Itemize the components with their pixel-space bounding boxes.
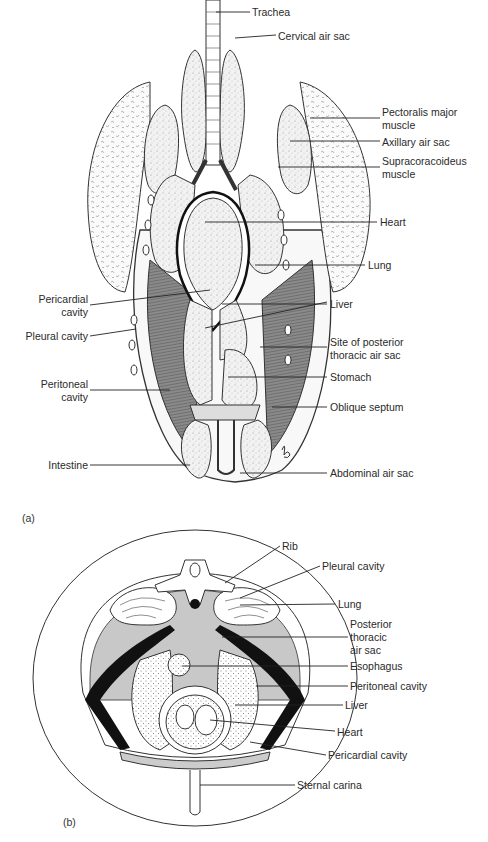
label-pectoralis-major-line1: Pectoralis major xyxy=(382,106,457,118)
label-sternal-carina: Sternal carina xyxy=(297,779,362,791)
label-stomach: Stomach xyxy=(330,371,371,383)
label-liver-b: Liver xyxy=(345,699,368,711)
trachea xyxy=(206,0,220,165)
right-cervical-sac xyxy=(219,50,244,172)
label-axillary-air-sac: Axillary air sac xyxy=(382,136,450,148)
label-esophagus: Esophagus xyxy=(350,660,403,672)
label-heart: Heart xyxy=(380,216,406,228)
esophagus xyxy=(168,654,190,676)
label-oblique-septum: Oblique septum xyxy=(330,401,404,413)
oblique-septum-sheet xyxy=(190,405,260,420)
label-pectoralis-major-line2: muscle xyxy=(382,119,415,131)
label-pleural-cavity-b: Pleural cavity xyxy=(322,560,384,572)
sternal-carina-shape xyxy=(190,770,200,815)
aorta xyxy=(190,599,200,609)
label-abdominal-air-sac: Abdominal air sac xyxy=(330,467,413,479)
panel-label-b: (b) xyxy=(63,816,76,828)
heart-chamber-left xyxy=(176,705,194,729)
label-supracoracoideus-line1: Supracoracoideus xyxy=(382,155,467,167)
label-peritoneal-cavity-line1: Peritoneal xyxy=(41,378,88,390)
label-pericardial-cavity-b: Pericardial cavity xyxy=(328,749,407,761)
label-posterior-thoracic-line2: thoracic xyxy=(350,631,387,643)
label-pericardial-cavity-line1: Pericardial xyxy=(38,293,88,305)
label-pericardial-cavity-line2: cavity xyxy=(61,306,88,318)
label-peritoneal-cavity-line2: cavity xyxy=(61,391,88,403)
left-abdominal-sac xyxy=(181,420,211,478)
label-posterior-thoracic-line1: Posterior xyxy=(350,618,392,630)
label-intestine: Intestine xyxy=(48,459,88,471)
label-site-posterior-line2: thoracic air sac xyxy=(330,349,401,361)
label-pleural-cavity-a: Pleural cavity xyxy=(26,330,88,342)
label-lung-b: Lung xyxy=(338,598,361,610)
label-trachea: Trachea xyxy=(252,6,290,18)
label-cervical-air-sac: Cervical air sac xyxy=(278,30,350,42)
label-peritoneal-cavity-b: Peritoneal cavity xyxy=(350,680,427,692)
label-liver: Liver xyxy=(330,298,353,310)
spinal-canal xyxy=(190,563,200,577)
label-rib: Rib xyxy=(282,540,298,552)
label-posterior-thoracic-line3: air sac xyxy=(350,644,381,656)
label-heart-b: Heart xyxy=(337,726,363,738)
label-site-posterior-line1: Site of posterior xyxy=(330,336,404,348)
label-lung: Lung xyxy=(368,259,391,271)
label-supracoracoideus-line2: muscle xyxy=(382,168,415,180)
left-cervical-sac xyxy=(182,50,207,172)
panel-label-a: (a) xyxy=(22,512,35,524)
